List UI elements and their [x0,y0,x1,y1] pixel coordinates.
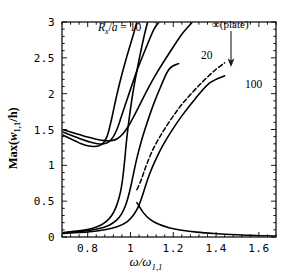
curve-label-100: 100 [245,78,262,90]
y-axis-title-subscript: 1,1 [12,122,22,133]
curve-label-infinity-plate: ∞(plate) [212,18,249,30]
x-tick-label: 1.4 [205,242,226,255]
curve-label-rx-10: Rx/a = 10 [98,21,141,36]
y-axis-title-variable: w [6,132,20,140]
x-tick-label: 1.6 [248,242,269,255]
curve-label-rx-value: = 10 [117,21,141,33]
x-axis-title: ω/ω1,1 [129,254,162,272]
curve-path [137,203,276,237]
x-axis-title-subscript: 1,1 [151,262,162,272]
y-axis-title-prefix: Max( [6,141,20,169]
y-tick-label: 0.5 [10,195,55,208]
curve-label-rx-symbol: R [98,21,105,33]
y-tick-label: 2.5 [10,51,55,64]
y-axis-title: Max(w1,1/h) [6,88,23,188]
data-curves [62,22,276,236]
frequency-response-chart: 00.511.522.53 0.811.21.41.6 Max(w1,1/h) … [0,0,292,280]
y-tick-label: 3 [10,16,55,29]
x-axis-title-omega: ω/ω [129,254,151,269]
x-tick-label: 0.8 [77,242,98,255]
y-tick-label: 0 [10,231,55,244]
plate-arrow-annotation [228,31,235,67]
y-axis-title-suffix: /h) [6,107,20,122]
curve-path [62,22,137,147]
curve-path [62,22,193,141]
x-tick-label: 1.2 [163,242,184,255]
curve-path [62,22,148,233]
curve-label-20: 20 [201,49,213,61]
